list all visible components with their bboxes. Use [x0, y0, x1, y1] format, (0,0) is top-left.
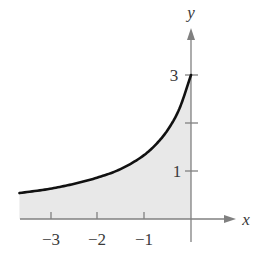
chart: −3 −2 −1 1 3 x y	[0, 0, 264, 267]
y-tick-label-3: 3	[170, 66, 179, 85]
x-tick-label-minus1: −1	[135, 230, 153, 249]
x-tick-label-minus2: −2	[88, 230, 106, 249]
x-tick-label-minus3: −3	[42, 230, 60, 249]
x-axis-arrow-icon	[224, 215, 236, 223]
y-axis-arrow-icon	[187, 28, 195, 40]
x-axis-label: x	[241, 210, 250, 229]
shaded-area	[19, 75, 191, 219]
y-axis-label: y	[185, 3, 195, 22]
y-tick-label-1: 1	[173, 162, 182, 181]
